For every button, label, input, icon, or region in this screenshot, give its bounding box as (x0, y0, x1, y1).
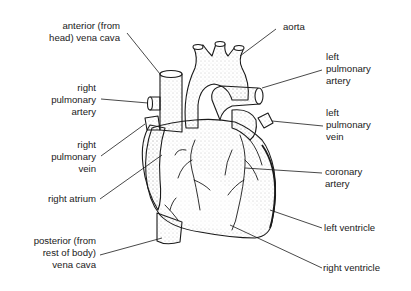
label-aorta: aorta (283, 21, 305, 33)
label-right-pulmonary-artery: right pulmonary artery (51, 82, 96, 118)
leader-posterior-vena-cava (100, 238, 162, 255)
label-posterior-vena-cava: posterior (from rest of body) vena cava (34, 235, 96, 271)
label-coronary-artery: coronary artery (325, 166, 362, 190)
leader-left-pulmonary-artery (262, 70, 322, 88)
label-right-pulmonary-vein: right pulmonary vein (51, 139, 96, 175)
leader-anterior-vena-cava (127, 33, 160, 74)
leader-right-pulmonary-artery (101, 99, 148, 103)
leader-aorta (240, 29, 276, 56)
label-anterior-vena-cava: anterior (from head) vena cava (49, 20, 120, 44)
label-right-atrium: right atrium (48, 193, 96, 205)
left-pulmonary-vein-shape (258, 113, 273, 128)
leader-left-pulmonary-vein (272, 121, 323, 126)
right-pulmonary-vein-shape (145, 116, 160, 130)
label-left-pulmonary-vein: left pulmonary vein (326, 107, 371, 143)
heart-illustration (142, 42, 275, 244)
leader-right-ventricle (230, 225, 322, 268)
label-left-ventricle: left ventricle (324, 222, 375, 234)
leader-left-ventricle (270, 210, 322, 228)
label-left-pulmonary-artery: left pulmonary artery (326, 51, 371, 87)
leader-right-pulmonary-vein (101, 124, 145, 156)
label-right-ventricle: right ventricle (323, 262, 380, 274)
anterior-vena-cava-shape (160, 74, 182, 132)
